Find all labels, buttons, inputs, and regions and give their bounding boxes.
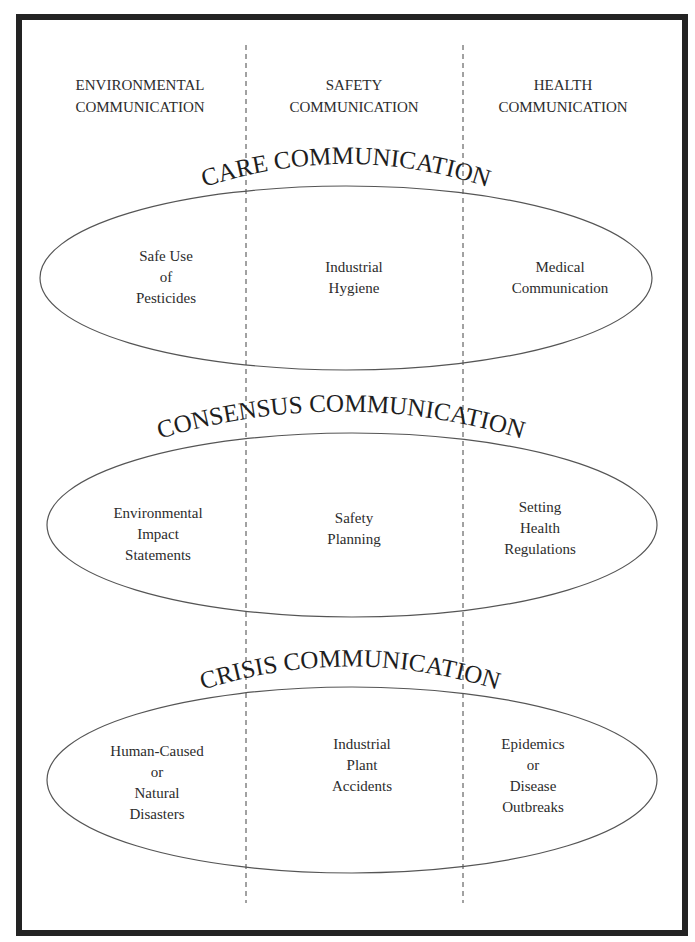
cell-line: Industrial	[264, 257, 444, 278]
crisis-health-cell: Epidemics or Disease Outbreaks	[443, 734, 623, 818]
care-environmental-cell: Safe Use of Pesticides	[76, 246, 256, 309]
cell-line: Environmental	[68, 503, 248, 524]
column-header-line: SAFETY	[254, 74, 454, 96]
care-safety-cell: Industrial Hygiene	[264, 257, 444, 299]
cell-line: Industrial	[272, 734, 452, 755]
consensus-title: CONSENSUS COMMUNICATION	[154, 389, 528, 443]
cell-line: Regulations	[450, 539, 630, 560]
cell-line: Epidemics	[443, 734, 623, 755]
column-header-safety: SAFETY COMMUNICATION	[254, 74, 454, 118]
column-header-line: COMMUNICATION	[463, 96, 663, 118]
cell-line: Plant	[272, 755, 452, 776]
column-header-line: COMMUNICATION	[254, 96, 454, 118]
cell-line: Setting	[450, 497, 630, 518]
cell-line: Safe Use	[76, 246, 256, 267]
cell-line: Statements	[68, 545, 248, 566]
column-header-environmental: ENVIRONMENTAL COMMUNICATION	[40, 74, 240, 118]
cell-line: Disease	[443, 776, 623, 797]
consensus-title-text: CONSENSUS COMMUNICATION	[154, 389, 528, 443]
care-health-cell: Medical Communication	[470, 257, 650, 299]
cell-line: Natural	[67, 783, 247, 804]
cell-line: Human-Caused	[67, 741, 247, 762]
consensus-safety-cell: Safety Planning	[264, 508, 444, 550]
cell-line: Impact	[68, 524, 248, 545]
cell-line: Outbreaks	[443, 797, 623, 818]
cell-line: Accidents	[272, 776, 452, 797]
cell-line: or	[443, 755, 623, 776]
column-header-line: ENVIRONMENTAL	[40, 74, 240, 96]
cell-line: Pesticides	[76, 288, 256, 309]
column-header-line: HEALTH	[463, 74, 663, 96]
crisis-safety-cell: Industrial Plant Accidents	[272, 734, 452, 797]
cell-line: Health	[450, 518, 630, 539]
crisis-environmental-cell: Human-Caused or Natural Disasters	[67, 741, 247, 825]
care-title-text: CARE COMMUNICATION	[198, 142, 494, 192]
consensus-health-cell: Setting Health Regulations	[450, 497, 630, 560]
cell-line: Safety	[264, 508, 444, 529]
cell-line: Medical	[470, 257, 650, 278]
cell-line: of	[76, 267, 256, 288]
cell-line: Communication	[470, 278, 650, 299]
column-header-line: COMMUNICATION	[40, 96, 240, 118]
cell-line: Hygiene	[264, 278, 444, 299]
cell-line: Disasters	[67, 804, 247, 825]
care-title: CARE COMMUNICATION	[198, 142, 494, 192]
cell-line: or	[67, 762, 247, 783]
cell-line: Planning	[264, 529, 444, 550]
column-header-health: HEALTH COMMUNICATION	[463, 74, 663, 118]
consensus-environmental-cell: Environmental Impact Statements	[68, 503, 248, 566]
